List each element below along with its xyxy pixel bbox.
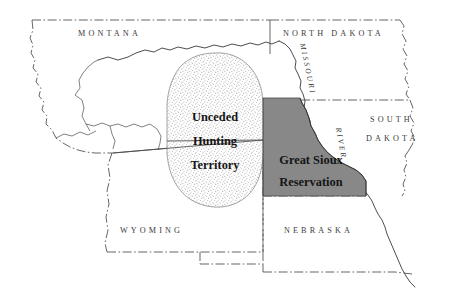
state-outline-nebraska (200, 196, 412, 274)
state-label-north-dakota: NORTH DAKOTA (283, 29, 384, 38)
state-label-south-dakota-line1: SOUTH (370, 115, 413, 124)
region-label-unceded-line1: Unceded (192, 110, 238, 124)
map-canvas: MONTANA NORTH DAKOTA SOUTH DAKOTA WYOMIN… (0, 0, 456, 302)
state-label-montana: MONTANA (78, 29, 141, 38)
unceded-hunting-territory-area (167, 53, 263, 207)
region-label-unceded-line3: Territory (190, 158, 240, 172)
region-label-reservation-line1: Great Sioux (279, 153, 343, 167)
state-label-south-dakota-line2: DAKOTA (366, 134, 419, 143)
river-tributaries-montana (56, 60, 161, 150)
state-label-wyoming: WYOMING (120, 226, 183, 235)
state-label-nebraska: NEBRASKA (284, 226, 353, 235)
river-label-missouri: MISSOURI (298, 42, 318, 96)
region-label-unceded-line2: Hunting (193, 134, 238, 148)
historical-map: MONTANA NORTH DAKOTA SOUTH DAKOTA WYOMIN… (0, 0, 456, 302)
region-label-reservation-line2: Reservation (279, 175, 342, 189)
